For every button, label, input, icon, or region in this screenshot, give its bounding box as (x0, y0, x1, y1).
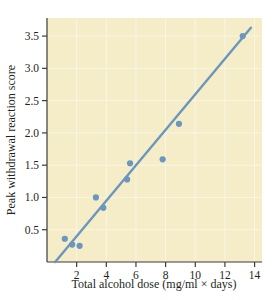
x-axis-title: Total alcohol dose (mg/ml × days) (72, 277, 237, 291)
data-point (124, 176, 130, 182)
data-point (240, 33, 246, 39)
data-point (93, 194, 99, 200)
data-point (100, 205, 106, 211)
data-point (127, 160, 133, 166)
y-tick-label: 1.0 (25, 191, 40, 203)
y-tick-label: 3.0 (25, 62, 40, 74)
y-tick-label: 3.5 (25, 30, 40, 42)
figure-container: 0.51.01.52.02.53.03.5 2468101214 Total a… (0, 0, 273, 300)
data-point (160, 156, 166, 162)
y-tick-label: 2.5 (25, 95, 40, 107)
x-tick-label: 14 (249, 269, 261, 281)
data-point (176, 121, 182, 127)
y-tick-label: 2.0 (25, 127, 40, 139)
data-point (77, 243, 83, 249)
scatter-chart: 0.51.01.52.02.53.03.5 2468101214 Total a… (0, 0, 273, 300)
data-point (62, 236, 68, 242)
y-tick-label: 0.5 (25, 224, 40, 236)
y-axis-title: Peak withdrawal reaction score (4, 65, 18, 215)
data-point (69, 241, 75, 247)
y-tick-label: 1.5 (25, 159, 40, 171)
